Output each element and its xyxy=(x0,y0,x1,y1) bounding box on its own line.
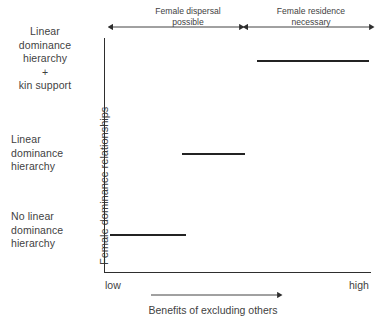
y-category-label-low: No linear dominance hierarchy xyxy=(11,210,93,251)
y-category-label-high: Linear dominance hierarchy + kin support xyxy=(6,25,84,93)
x-axis-line xyxy=(104,272,371,273)
y-axis-line xyxy=(104,38,105,273)
x-axis-title: Benefits of excluding others xyxy=(113,304,313,316)
step-segment-no-linear-hierarchy xyxy=(110,234,186,236)
x-axis-tick-high: high xyxy=(349,279,369,291)
top-range-arrow-1 xyxy=(110,20,243,34)
x-axis-tick-low: low xyxy=(105,279,121,291)
step-segment-linear-hierarchy xyxy=(182,153,245,155)
y-category-label-mid: Linear dominance hierarchy xyxy=(11,133,91,174)
x-axis-direction-arrow xyxy=(150,289,282,301)
top-range-arrow-2 xyxy=(245,20,373,34)
step-segment-linear-hierarchy-kin-support xyxy=(257,60,369,62)
figure-canvas: Female dispersal possible Female residen… xyxy=(0,0,383,327)
